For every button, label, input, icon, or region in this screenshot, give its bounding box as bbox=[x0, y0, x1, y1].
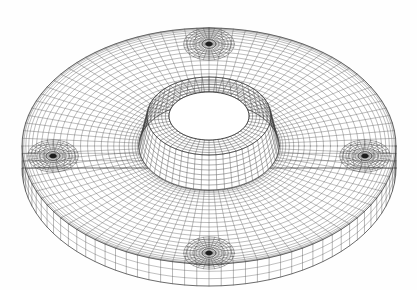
mesh-viewport[interactable] bbox=[0, 0, 417, 290]
wireframe-mesh-canvas bbox=[0, 0, 417, 290]
